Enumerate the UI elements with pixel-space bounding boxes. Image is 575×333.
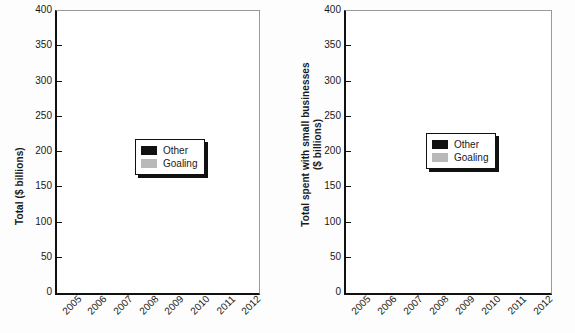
left-y-axis-label: Total ($ billions) [14,147,25,225]
right-legend-label-goaling: Goaling [454,152,488,163]
right-plot-area: 050100150200250300350400 Other Goaling [344,10,552,295]
right-legend-row-other: Other [432,138,488,151]
bar-slot-2006 [372,11,398,293]
left-legend-row-goaling: Goaling [141,157,197,170]
x-label-cell-2009: 2009 [158,299,184,333]
y-tick-label: 100 [324,216,341,227]
x-label-cell-2011: 2011 [209,299,235,333]
left-legend-label-goaling: Goaling [163,158,197,169]
y-tick-label: 400 [35,4,52,15]
right-y-axis-label-line1: Total spent with small businesses [300,62,311,226]
y-tick-label: 400 [324,4,341,15]
y-tick-label: 200 [35,145,52,156]
y-tick-label: 150 [324,180,341,191]
bar-slot-2006 [82,11,107,293]
y-tick-label: 300 [35,75,52,86]
right-x-axis-labels: 20052006200720082009201020112012 [344,299,552,333]
left-legend-label-other: Other [163,145,188,156]
x-label-cell-2009: 2009 [448,299,474,333]
figure-two-stacked-bar-charts: Total ($ billions) 050100150200250300350… [0,0,575,333]
y-tick-label: 250 [324,110,341,121]
x-tick-label-2011: 2011 [505,293,528,316]
x-label-cell-2007: 2007 [106,299,132,333]
y-tick-label: 150 [35,180,52,191]
y-tick-label: 50 [41,251,52,262]
left-x-axis-labels: 20052006200720082009201020112012 [55,299,260,333]
right-y-axis-label-line2: ($ billions) [312,119,323,170]
x-label-cell-2011: 2011 [500,299,526,333]
y-tick-label: 200 [324,145,341,156]
y-tick-label: 300 [324,75,341,86]
right-legend-label-other: Other [454,139,479,150]
x-tick-label-2012: 2012 [531,293,555,317]
y-tick-label: 0 [46,286,52,297]
x-label-cell-2012: 2012 [234,299,260,333]
chart-panel-right: Total spent with small businesses ($ bil… [288,0,575,333]
x-label-cell-2005: 2005 [344,299,370,333]
left-legend-row-other: Other [141,144,197,157]
x-label-cell-2008: 2008 [422,299,448,333]
legend-swatch-other-icon [432,140,448,149]
x-label-cell-2008: 2008 [132,299,158,333]
bar-slot-2012 [234,11,259,293]
y-tick-label: 50 [330,251,341,262]
left-plot-area: 050100150200250300350400 Other Goaling [55,10,260,295]
legend-swatch-other-icon [141,146,157,155]
x-label-cell-2005: 2005 [55,299,81,333]
x-label-cell-2006: 2006 [370,299,396,333]
legend-swatch-goaling-icon [432,153,448,162]
bar-slot-2007 [397,11,423,293]
x-tick-label-2012: 2012 [239,293,263,317]
y-tick-label: 250 [35,110,52,121]
chart-panel-left: Total ($ billions) 050100150200250300350… [0,0,288,333]
left-legend: Other Goaling [135,139,205,175]
bar-slot-2005 [57,11,82,293]
bar-slot-2011 [500,11,526,293]
bar-slot-2007 [108,11,133,293]
bar-slot-2012 [525,11,551,293]
y-tick-label: 0 [335,286,341,297]
x-label-cell-2010: 2010 [183,299,209,333]
x-label-cell-2010: 2010 [474,299,500,333]
x-label-cell-2007: 2007 [396,299,422,333]
legend-swatch-goaling-icon [141,159,157,168]
bar-slot-2011 [209,11,234,293]
y-tick-label: 100 [35,216,52,227]
bar-slot-2005 [346,11,372,293]
right-y-axis-label: Total spent with small businesses ($ bil… [300,37,324,252]
x-label-cell-2006: 2006 [81,299,107,333]
y-tick-label: 350 [324,39,341,50]
x-label-cell-2012: 2012 [526,299,552,333]
y-tick-label: 350 [35,39,52,50]
right-legend-row-goaling: Goaling [432,151,488,164]
right-legend: Other Goaling [426,133,496,169]
